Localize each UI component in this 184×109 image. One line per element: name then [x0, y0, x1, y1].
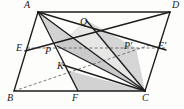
point-label-E-prime: E': [158, 41, 166, 51]
point-label-P-prime: P': [124, 41, 132, 51]
vertex-label-B: B: [7, 93, 13, 103]
point-label-E: E: [16, 43, 22, 53]
point-label-K: K: [57, 61, 64, 71]
point-label-Q: Q: [80, 17, 87, 27]
vertex-label-C: C: [142, 93, 149, 103]
point-label-P: P: [45, 46, 51, 56]
side-CD: [145, 12, 170, 91]
vertex-label-D: D: [172, 0, 179, 10]
vertex-label-A: A: [24, 0, 30, 10]
geometry-canvas: [0, 0, 184, 109]
geometry-figure: A D B C E E' P P' Q K F: [0, 0, 184, 109]
point-label-F: F: [72, 93, 78, 103]
